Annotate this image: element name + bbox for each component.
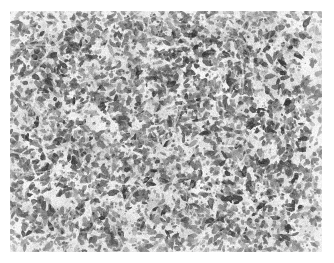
micrograph-canvas (10, 11, 322, 252)
annotation-label (0, 0, 1, 1)
micrograph-image (10, 11, 322, 252)
figure-caption (0, 0, 1, 1)
scale-bar-label (0, 0, 1, 1)
figure-page (0, 0, 334, 263)
figure-title (0, 0, 1, 1)
